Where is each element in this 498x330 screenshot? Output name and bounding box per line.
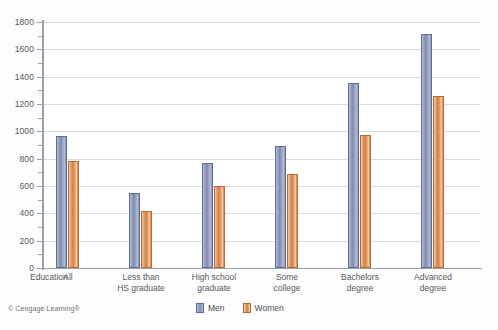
- y-axis-label: 1400: [15, 72, 34, 82]
- x-axis-category-label: High school graduate: [174, 272, 254, 294]
- bar-men: [275, 146, 286, 268]
- legend-entry-men: Men: [196, 303, 225, 313]
- copyright-credit: © Cengage Learning®: [8, 305, 80, 312]
- y-tick-minor: [38, 118, 42, 119]
- legend-swatch-icon: [243, 303, 251, 313]
- gridline: [42, 131, 480, 132]
- x-axis-category-label: All: [28, 272, 108, 283]
- bar-group: [202, 22, 226, 268]
- gridline: [42, 241, 480, 242]
- y-tick-major: [37, 104, 42, 105]
- x-axis-category-label: Less than HS graduate: [101, 272, 181, 294]
- x-axis-line: [42, 268, 482, 269]
- gridline: [42, 159, 480, 160]
- bar-group: [348, 22, 372, 268]
- y-tick-minor: [38, 254, 42, 255]
- y-tick-major: [37, 186, 42, 187]
- y-tick-major: [37, 131, 42, 132]
- y-axis-label: 1600: [15, 44, 34, 54]
- x-axis-category-label: Some college: [247, 272, 327, 294]
- plot-area: [42, 22, 480, 268]
- y-axis-label: 800: [20, 154, 34, 164]
- y-tick-minor: [38, 172, 42, 173]
- x-axis-category-label: Bachelors degree: [320, 272, 400, 294]
- bar-group: [421, 22, 445, 268]
- bar-women: [68, 161, 79, 268]
- y-axis-label: 1000: [15, 126, 34, 136]
- y-tick-minor: [38, 200, 42, 201]
- y-tick-minor: [38, 90, 42, 91]
- gridline: [42, 213, 480, 214]
- bar-men: [129, 193, 140, 268]
- bar-group: [275, 22, 299, 268]
- gridline: [42, 104, 480, 105]
- x-axis-category-label: Advanced degree: [393, 272, 473, 294]
- bar-women: [214, 186, 225, 268]
- y-axis-label: 200: [20, 236, 34, 246]
- y-tick-major: [37, 213, 42, 214]
- legend-label: Women: [255, 303, 284, 313]
- bar-women: [287, 174, 298, 268]
- chart-legend: MenWomen: [196, 303, 284, 313]
- gridline: [42, 49, 480, 50]
- y-tick-minor: [38, 36, 42, 37]
- y-tick-major: [37, 22, 42, 23]
- legend-entry-women: Women: [243, 303, 284, 313]
- bar-women: [141, 211, 152, 268]
- bar-men: [202, 163, 213, 268]
- bar-women: [360, 135, 371, 268]
- y-tick-minor: [38, 63, 42, 64]
- bar-women: [433, 96, 444, 268]
- gridline: [42, 186, 480, 187]
- bar-group: [56, 22, 80, 268]
- y-tick-major: [37, 77, 42, 78]
- gridline: [42, 22, 480, 23]
- y-tick-major: [37, 49, 42, 50]
- y-axis-label: 1800: [15, 17, 34, 27]
- y-axis-label: 600: [20, 181, 34, 191]
- y-tick-minor: [38, 227, 42, 228]
- bar-men: [348, 83, 359, 268]
- y-axis-line: 020040060080010001200140016001800: [42, 20, 44, 270]
- y-tick-major: [37, 241, 42, 242]
- y-axis-label: 1200: [15, 99, 34, 109]
- y-tick-major: [37, 159, 42, 160]
- legend-swatch-icon: [196, 303, 204, 313]
- bar-men: [56, 136, 67, 268]
- legend-label: Men: [208, 303, 225, 313]
- y-axis-label: 400: [20, 208, 34, 218]
- bar-group: [129, 22, 153, 268]
- bar-men: [421, 34, 432, 268]
- chart-figure: 020040060080010001200140016001800 Educat…: [0, 0, 498, 330]
- gridline: [42, 77, 480, 78]
- y-tick-minor: [38, 145, 42, 146]
